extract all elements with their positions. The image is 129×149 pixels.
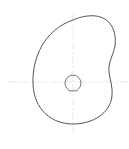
cam-drawing (0, 0, 129, 149)
cam-outer-profile (33, 16, 115, 124)
